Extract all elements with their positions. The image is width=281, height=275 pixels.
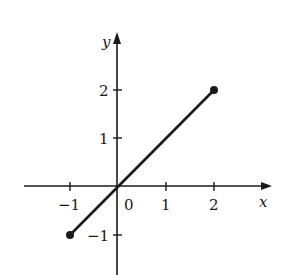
- x-tick-label-1: 1: [161, 196, 171, 214]
- y-axis-label: y: [101, 33, 111, 51]
- y-axis-arrow-icon: [113, 32, 121, 44]
- endpoint-left: [66, 231, 74, 239]
- y-tick-label-2: 2: [99, 82, 109, 100]
- y-tick-label-1: 1: [99, 130, 109, 148]
- data-line: [70, 90, 214, 235]
- x-tick-label-0: 0: [124, 196, 134, 214]
- plot-area: y x −1 0 1 2 2 1 −1: [0, 0, 281, 275]
- chart: y x −1 0 1 2 2 1 −1: [0, 0, 281, 275]
- x-axis-label: x: [259, 193, 268, 211]
- x-tick-label--1: −1: [58, 196, 80, 214]
- x-tick-label-2: 2: [209, 196, 219, 214]
- endpoint-right: [210, 86, 218, 94]
- y-tick-label--1: −1: [87, 227, 109, 245]
- x-axis-arrow-icon: [261, 182, 272, 190]
